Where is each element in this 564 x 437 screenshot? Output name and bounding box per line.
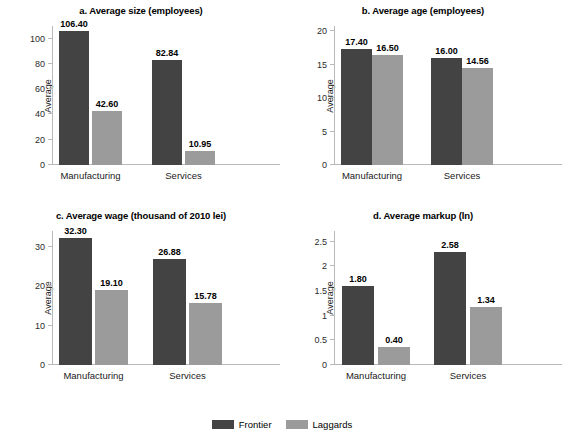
- panel-c-y-tick-label: 30: [35, 242, 45, 251]
- panel-b-y-tick-label: 10: [317, 94, 327, 103]
- legend-label-laggards: Laggards: [313, 419, 353, 430]
- panel-a-x-tick-manufacturing: Manufacturing: [60, 170, 120, 181]
- panel-c-y-tick-mark: [48, 364, 52, 365]
- legend-item-laggards[interactable]: Laggards: [286, 419, 353, 430]
- figure-panel-grid: a. Average size (employees) Average 0204…: [0, 0, 564, 437]
- panel-b-y-tick-label: 0: [322, 161, 327, 170]
- panel-a: a. Average size (employees) Average 0204…: [0, 0, 282, 205]
- panel-c: c. Average wage (thousand of 2010 lei) A…: [0, 205, 282, 405]
- panel-a-y-tick-mark: [48, 38, 52, 39]
- legend-swatch-frontier: [212, 420, 234, 429]
- panel-a-x-ticks: ManufacturingServices: [53, 26, 274, 165]
- figure-legend: FrontierLaggards: [0, 419, 564, 430]
- panel-c-title: c. Average wage (thousand of 2010 lei): [0, 210, 282, 221]
- legend-item-frontier[interactable]: Frontier: [212, 419, 272, 430]
- panel-a-y-tick-mark: [48, 139, 52, 140]
- panel-d-y-tick-label: 0.5: [314, 336, 327, 345]
- panel-d-y-tick-label: 1: [322, 311, 327, 320]
- panel-a-y-tick-label: 0: [40, 161, 45, 170]
- panel-b-x-tick-manufacturing: Manufacturing: [342, 170, 402, 181]
- panel-c-y-tick-label: 0: [40, 361, 45, 370]
- panel-a-y-tick-label: 60: [35, 85, 45, 94]
- panel-d-y-tick-mark: [330, 265, 334, 266]
- panel-b-x-ticks: ManufacturingServices: [335, 26, 556, 165]
- panel-a-y-tick-mark: [48, 113, 52, 114]
- panel-d-y-tick-label: 1.5: [314, 287, 327, 296]
- panel-c-y-tick-mark: [48, 246, 52, 247]
- panel-b-y-tick-label: 20: [317, 27, 327, 36]
- panel-a-y-tick-label: 100: [30, 34, 45, 43]
- panel-b-title: b. Average age (employees): [282, 5, 564, 16]
- panel-b-y-tick-mark: [330, 97, 334, 98]
- panel-a-y-tick-label: 80: [35, 59, 45, 68]
- panel-c-plot-area: Average 0102030 32.3019.1026.8815.78 Man…: [52, 231, 274, 365]
- panel-a-plot-area: Average 020406080100 106.4042.6082.8410.…: [52, 26, 274, 165]
- panel-d-title: d. Average markup (ln): [282, 210, 564, 221]
- panel-b-y-tick-mark: [330, 64, 334, 65]
- panel-d: d. Average markup (ln) Average 00.511.52…: [282, 205, 564, 405]
- panel-c-x-tick-services: Services: [169, 370, 205, 381]
- panel-d-y-tick-label: 0: [322, 361, 327, 370]
- panel-c-y-tick-label: 20: [35, 282, 45, 291]
- panel-d-plot-area: Average 00.511.522.5 1.800.402.581.34 Ma…: [334, 231, 556, 365]
- panel-c-y-tick-label: 10: [35, 321, 45, 330]
- panel-d-y-tick-label: 2: [322, 262, 327, 271]
- panel-d-y-tick-mark: [330, 315, 334, 316]
- panel-b-y-tick-mark: [330, 164, 334, 165]
- panel-b: b. Average age (employees) Average 05101…: [282, 0, 564, 205]
- legend-swatch-laggards: [286, 420, 308, 429]
- panel-b-y-tick-mark: [330, 30, 334, 31]
- panel-c-x-ticks: ManufacturingServices: [53, 231, 274, 365]
- panel-d-y-tick-mark: [330, 241, 334, 242]
- panel-b-y-tick-label: 5: [322, 127, 327, 136]
- legend-label-frontier: Frontier: [239, 419, 272, 430]
- panel-a-y-tick-mark: [48, 63, 52, 64]
- panel-d-x-tick-services: Services: [450, 370, 486, 381]
- panel-c-y-tick-mark: [48, 285, 52, 286]
- panel-d-y-tick-mark: [330, 290, 334, 291]
- panel-d-y-tick-mark: [330, 339, 334, 340]
- panel-a-y-tick-mark: [48, 164, 52, 165]
- panel-a-y-tick-label: 40: [35, 110, 45, 119]
- panel-a-y-tick-mark: [48, 88, 52, 89]
- panel-c-x-tick-manufacturing: Manufacturing: [63, 370, 123, 381]
- panel-a-title: a. Average size (employees): [0, 5, 282, 16]
- panel-b-plot-area: Average 05101520 17.4016.5016.0014.56 Ma…: [334, 26, 556, 165]
- panel-d-y-tick-mark: [330, 364, 334, 365]
- panel-b-y-tick-mark: [330, 131, 334, 132]
- panel-c-y-tick-mark: [48, 325, 52, 326]
- panel-a-y-tick-label: 20: [35, 135, 45, 144]
- panel-b-y-tick-label: 15: [317, 60, 327, 69]
- panel-b-x-tick-services: Services: [444, 170, 480, 181]
- panel-a-x-tick-services: Services: [165, 170, 201, 181]
- panel-d-y-tick-label: 2.5: [314, 237, 327, 246]
- panel-d-x-ticks: ManufacturingServices: [335, 231, 556, 365]
- panel-d-x-tick-manufacturing: Manufacturing: [346, 370, 406, 381]
